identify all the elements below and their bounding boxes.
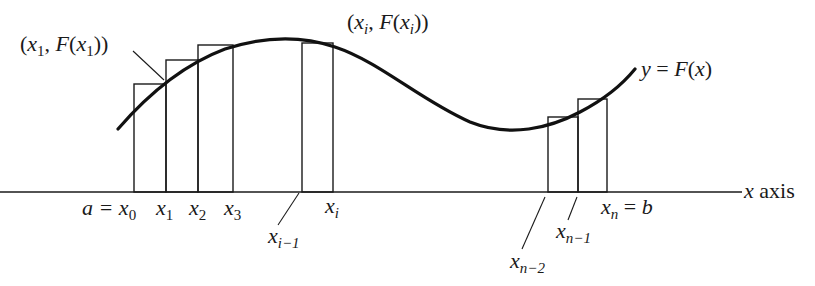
leader-line-x-n-minus-2 bbox=[522, 197, 545, 249]
leader-line-x-i-minus-1 bbox=[278, 193, 299, 225]
label-x-axis: x axis bbox=[743, 178, 795, 203]
riemann-rectangles bbox=[134, 43, 607, 192]
tick-label-x2: x2 bbox=[188, 195, 206, 223]
tick-label-x-i-minus-1: xi−1 bbox=[267, 223, 300, 251]
tick-label-x-n-minus-2: xn−2 bbox=[509, 248, 545, 276]
tick-label-x-n-minus-1: xn−1 bbox=[555, 218, 591, 246]
rectangle-1 bbox=[134, 84, 166, 192]
leader-line-point-1 bbox=[133, 51, 164, 80]
tick-label-xn-equals-b: xn = b bbox=[600, 194, 653, 222]
rectangle-i bbox=[302, 43, 333, 192]
label-point-i: (xi, F(xi)) bbox=[347, 9, 429, 37]
label-curve: y = F(x) bbox=[639, 56, 712, 81]
tick-label-a-x0: a = x0 bbox=[82, 195, 136, 223]
riemann-sum-diagram: (x1, F(x1)) (xi, F(xi)) y = F(x) x axis … bbox=[0, 0, 815, 286]
tick-label-xi: xi bbox=[324, 193, 339, 221]
label-point-1: (x1, F(x1)) bbox=[20, 31, 108, 59]
leader-line-x-n-minus-1 bbox=[568, 197, 577, 220]
tick-label-x3: x3 bbox=[223, 195, 241, 223]
tick-label-x1: x1 bbox=[155, 195, 173, 223]
rectangle-n bbox=[578, 99, 607, 192]
rectangle-n-1 bbox=[548, 117, 578, 192]
rectangle-3 bbox=[198, 45, 233, 192]
